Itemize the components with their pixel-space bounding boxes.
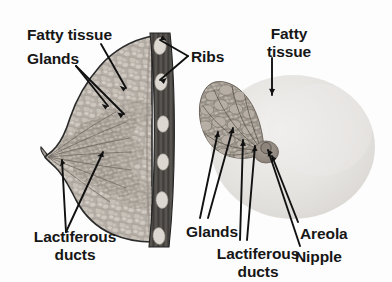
rib — [157, 154, 169, 170]
label-lactiferous-ducts-left-line1: Lactiferous — [25, 228, 125, 246]
label-fatty-tissue-left: Fatty tissue — [27, 26, 112, 44]
label-glands-left: Glands — [27, 50, 79, 68]
label-lactiferous-ducts-left-line2: ducts — [25, 246, 125, 264]
breast-anatomy-figure: Fatty tissue Glands Ribs Fatty tissue La… — [0, 0, 392, 282]
left-chest-wall — [149, 33, 174, 247]
rib — [157, 116, 169, 133]
label-areola: Areola — [300, 225, 348, 243]
label-lactiferous-ducts-left: Lactiferous ducts — [25, 228, 125, 265]
right-panel-frontal-view — [198, 75, 375, 219]
label-glands-right: Glands — [186, 223, 238, 241]
leader-glands-right-a — [200, 132, 218, 218]
left-nipple — [41, 147, 47, 157]
label-fatty-tissue-right-line2: tissue — [258, 43, 320, 61]
label-ribs: Ribs — [191, 48, 224, 66]
label-nipple: Nipple — [295, 248, 342, 266]
label-fatty-tissue-right: Fatty tissue — [258, 25, 320, 62]
label-fatty-tissue-right-line1: Fatty — [258, 25, 320, 43]
